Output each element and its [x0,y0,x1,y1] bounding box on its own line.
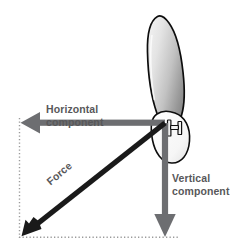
blade-shape [147,16,184,127]
diagram-canvas [0,0,241,252]
horizontal-label-line2: component [46,116,103,129]
vertical-component-label: Vertical component [172,172,229,198]
horizontal-arrow-head [21,112,41,133]
vertical-arrow-head [154,214,175,237]
horizontal-label-line1: Horizontal [46,103,98,115]
bolt-shaft [171,126,179,130]
force-arrow [22,123,166,236]
force-diagram: Horizontal component Vertical component … [0,0,241,252]
hub-shape [151,112,189,164]
vertical-label-line2: component [172,185,229,198]
vertical-label-line1: Vertical [172,172,210,184]
propeller-blade [147,16,184,127]
horizontal-component-label: Horizontal component [46,103,103,129]
blade-hub [151,112,189,164]
vertical-arrow-shaft [162,123,168,214]
